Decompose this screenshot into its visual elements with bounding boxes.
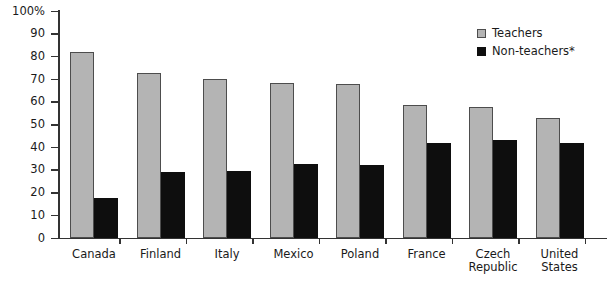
y-tick-mark [51, 11, 58, 13]
y-tick-mark [51, 192, 58, 194]
y-tick-mark [51, 169, 58, 171]
y-tick-mark [51, 147, 58, 149]
bar-teachers [203, 79, 227, 238]
bar-teachers [336, 84, 360, 238]
x-tick-mark [119, 238, 121, 244]
x-tick-mark [452, 238, 454, 244]
bar-non-teachers [94, 198, 118, 238]
bar-chart: 100%9080706050403020100 CanadaFinlandIta… [0, 0, 609, 292]
y-tick-label: 10 [0, 208, 45, 222]
legend-label-non-teachers: Non-teachers* [492, 44, 575, 58]
legend-item-non-teachers[interactable]: Non-teachers* [477, 42, 575, 60]
bar-non-teachers [560, 143, 584, 238]
plot-area [59, 11, 549, 238]
bar-non-teachers [294, 164, 318, 238]
x-tick-mark [518, 238, 520, 244]
y-tick-label: 0 [0, 231, 45, 245]
y-tick-label: 70 [0, 72, 45, 86]
teachers-swatch-icon [477, 29, 486, 38]
x-tick-mark [186, 238, 188, 244]
y-tick-mark [51, 238, 58, 240]
legend: Teachers Non-teachers* [477, 24, 575, 60]
x-tick-mark [385, 238, 387, 244]
y-tick-label: 80 [0, 49, 45, 63]
y-tick-label: 40 [0, 140, 45, 154]
y-tick-mark [51, 56, 58, 58]
x-tick-mark [252, 238, 254, 244]
bar-non-teachers [427, 143, 451, 238]
y-tick-label: 90 [0, 26, 45, 40]
bar-teachers [137, 73, 161, 238]
y-tick-mark [51, 33, 58, 35]
legend-item-teachers[interactable]: Teachers [477, 24, 575, 42]
bar-non-teachers [493, 140, 517, 238]
x-tick-mark [319, 238, 321, 244]
bar-teachers [469, 107, 493, 238]
y-tick-label: 30 [0, 162, 45, 176]
x-axis-category-label: United States [520, 248, 600, 274]
bar-teachers [403, 105, 427, 238]
bar-teachers [70, 52, 94, 238]
y-tick-mark [51, 124, 58, 126]
y-tick-label: 60 [0, 94, 45, 108]
y-tick-label: 50 [0, 117, 45, 131]
y-tick-mark [51, 79, 58, 81]
non-teachers-swatch-icon [477, 47, 486, 56]
y-tick-mark [51, 215, 58, 217]
bar-non-teachers [227, 171, 251, 238]
bar-non-teachers [161, 172, 185, 238]
x-tick-mark [585, 238, 587, 244]
legend-label-teachers: Teachers [492, 26, 543, 40]
y-tick-label: 20 [0, 185, 45, 199]
bar-teachers [536, 118, 560, 238]
bar-teachers [270, 83, 294, 238]
bar-non-teachers [360, 165, 384, 238]
y-tick-label: 100% [0, 4, 45, 18]
y-tick-mark [51, 101, 58, 103]
